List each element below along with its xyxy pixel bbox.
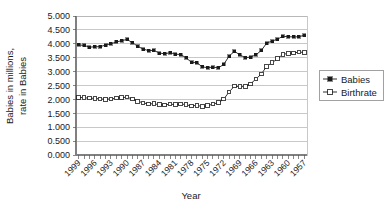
data-point-birthrate xyxy=(292,51,296,55)
line-chart: 5.0004.5004.0003.5003.0002.5002.0001.500… xyxy=(0,0,384,205)
data-point-babies xyxy=(238,53,241,56)
legend-label-babies: Babies xyxy=(341,74,370,85)
data-point-babies xyxy=(115,40,118,43)
data-point-babies xyxy=(303,34,306,37)
data-point-birthrate xyxy=(120,96,124,100)
chart-container: 5.0004.5004.0003.5003.0002.5002.0001.500… xyxy=(0,0,384,205)
y-axis-title-line1: Babies in millions, xyxy=(4,48,15,124)
data-point-babies xyxy=(190,61,193,64)
data-point-birthrate xyxy=(93,97,97,101)
y-tick-label: 3.000 xyxy=(47,67,70,77)
data-point-babies xyxy=(265,42,268,45)
data-point-birthrate xyxy=(174,103,178,107)
x-axis-title-text: Year xyxy=(181,190,200,201)
data-point-birthrate xyxy=(249,82,253,86)
data-point-birthrate xyxy=(281,53,285,57)
data-point-babies xyxy=(152,49,155,52)
x-tick-labels: 1999199619931990198719841981197819751972… xyxy=(62,158,308,179)
data-point-birthrate xyxy=(114,96,118,100)
y-tick-label: 1.000 xyxy=(47,122,70,132)
y-tick-labels: 5.0004.5004.0003.5003.0002.5002.0001.500… xyxy=(47,11,70,160)
data-point-babies xyxy=(104,44,107,47)
data-point-birthrate xyxy=(125,95,129,99)
data-point-babies xyxy=(126,38,129,41)
gridlines xyxy=(76,16,307,155)
data-point-birthrate xyxy=(211,102,215,106)
data-point-birthrate xyxy=(179,102,183,106)
data-point-birthrate xyxy=(168,102,172,106)
x-tick-label: 1996 xyxy=(78,158,99,179)
data-point-birthrate xyxy=(217,101,221,105)
series-birthrate xyxy=(77,50,306,108)
data-point-babies xyxy=(88,46,91,49)
data-point-birthrate xyxy=(297,50,301,54)
data-point-birthrate xyxy=(200,105,204,109)
data-point-birthrate xyxy=(131,97,135,101)
data-point-birthrate xyxy=(190,104,194,108)
data-point-birthrate xyxy=(260,72,264,76)
x-tick-label: 1990 xyxy=(110,158,131,179)
x-tick-label: 1972 xyxy=(207,158,228,179)
x-tick-label: 1999 xyxy=(62,158,83,179)
data-point-birthrate xyxy=(136,99,140,103)
data-point-babies xyxy=(169,51,172,54)
y-tick-label: 4.000 xyxy=(47,39,70,49)
data-point-babies xyxy=(195,61,198,64)
data-point-birthrate xyxy=(152,102,156,106)
data-point-babies xyxy=(77,43,80,46)
x-tick-label: 1969 xyxy=(223,158,244,179)
x-tick-label: 1987 xyxy=(127,158,148,179)
data-point-babies xyxy=(287,35,290,38)
data-point-birthrate xyxy=(243,85,247,89)
data-point-birthrate xyxy=(254,77,258,81)
data-point-babies xyxy=(254,53,257,56)
data-point-birthrate xyxy=(276,57,280,61)
data-point-birthrate xyxy=(98,97,102,101)
data-point-birthrate xyxy=(109,97,113,101)
x-tick-label: 1960 xyxy=(272,158,293,179)
y-tick-label: 0.000 xyxy=(47,150,70,160)
x-tick-label: 1963 xyxy=(256,158,277,179)
data-point-babies xyxy=(297,35,300,38)
data-point-babies xyxy=(142,48,145,51)
data-point-birthrate xyxy=(227,90,231,94)
data-point-babies xyxy=(281,35,284,38)
y-axis-title: Babies in millions, rate in Babies xyxy=(4,48,28,124)
y-tick-label: 5.000 xyxy=(47,11,70,21)
x-tick-label: 1993 xyxy=(94,158,115,179)
data-point-babies xyxy=(120,39,123,42)
data-point-babies xyxy=(99,45,102,48)
data-point-babies xyxy=(249,56,252,59)
data-point-birthrate xyxy=(147,102,151,106)
x-tick-label: 1981 xyxy=(159,158,180,179)
data-point-birthrate xyxy=(184,103,188,107)
data-point-babies xyxy=(276,38,279,41)
legend-marker-birthrate xyxy=(328,90,333,95)
legend-marker-babies xyxy=(328,77,333,82)
data-point-babies xyxy=(147,49,150,52)
data-point-birthrate xyxy=(303,51,307,55)
data-point-babies xyxy=(222,63,225,66)
data-point-babies xyxy=(136,45,139,48)
data-point-birthrate xyxy=(163,103,167,107)
x-tick-label: 1975 xyxy=(191,158,212,179)
y-axis-title-line2: rate in Babies xyxy=(17,57,28,115)
data-point-babies xyxy=(211,66,214,69)
data-point-babies xyxy=(271,40,274,43)
x-tick-label: 1984 xyxy=(143,158,164,179)
data-point-birthrate xyxy=(233,84,237,88)
data-point-babies xyxy=(109,42,112,45)
y-tick-label: 2.500 xyxy=(47,81,70,91)
data-point-babies xyxy=(174,53,177,56)
legend-label-birthrate: Birthrate xyxy=(341,87,377,98)
x-tick-label: 1978 xyxy=(175,158,196,179)
data-point-birthrate xyxy=(238,85,242,89)
data-point-babies xyxy=(131,41,134,44)
x-axis-title: Year xyxy=(181,190,200,201)
x-tick-marks xyxy=(79,155,305,159)
data-point-birthrate xyxy=(88,96,92,100)
data-point-birthrate xyxy=(82,96,86,100)
data-point-babies xyxy=(93,45,96,48)
y-tick-label: 1.500 xyxy=(47,109,70,119)
legend[interactable]: Babies Birthrate xyxy=(319,70,383,100)
